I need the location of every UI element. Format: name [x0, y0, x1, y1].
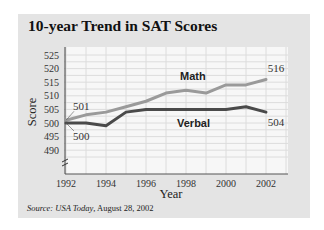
x-tick-label: 1996	[136, 178, 156, 189]
legend-label-verbal: Verbal	[177, 117, 210, 129]
legend-label-math: Math	[180, 70, 206, 82]
x-tick-label: 2002	[256, 178, 276, 189]
y-tick-label: 520	[44, 63, 59, 74]
source-date: , August 28, 2002	[93, 203, 153, 213]
x-axis-label: Year	[159, 187, 183, 201]
y-tick-label: 500	[44, 118, 59, 129]
y-tick-label: 490	[44, 145, 59, 156]
data-label: 500	[73, 130, 90, 142]
x-tick-label: 1992	[56, 178, 76, 189]
source-prefix: Source:	[27, 203, 53, 213]
y-tick-label: 495	[44, 131, 59, 142]
x-tick-label: 2000	[216, 178, 236, 189]
y-tick-label: 515	[44, 77, 59, 88]
x-tick-label: 1994	[96, 178, 116, 189]
data-label: 504	[268, 116, 285, 128]
line-chart: 4904955005055105155205251992199419961998…	[0, 0, 324, 230]
source-publication: USA Today	[55, 203, 93, 213]
y-axis-label: Score	[25, 97, 39, 126]
data-label: 516	[268, 62, 285, 74]
y-tick-label: 510	[44, 90, 59, 101]
y-tick-label: 525	[44, 50, 59, 61]
y-tick-label: 505	[44, 104, 59, 115]
source-note: Source: USA Today, August 28, 2002	[27, 203, 154, 213]
data-label: 501	[73, 100, 90, 112]
